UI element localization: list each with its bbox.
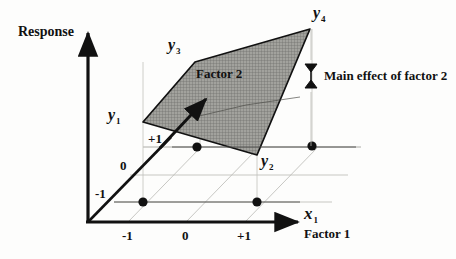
point-label-y3: y3 <box>168 36 181 56</box>
x2-axis-line <box>88 137 171 222</box>
y3-subscript: 3 <box>175 46 181 56</box>
x1-tick--1: -1 <box>122 228 133 244</box>
x2-tick--1: -1 <box>95 186 106 202</box>
x2-tick-0: 0 <box>120 158 127 174</box>
foreground-floor-grid <box>114 147 356 202</box>
main-effect-label: Main effect of factor 2 <box>324 68 447 84</box>
y2-subscript: 2 <box>268 162 274 172</box>
x2-tick-+1: +1 <box>148 131 162 147</box>
y4-subscript: 4 <box>320 14 326 24</box>
figure-canvas: Response y1 y2 y3 y4 Factor 2 Main effec… <box>0 0 456 259</box>
x1-axis-caption: Factor 1 <box>304 226 350 242</box>
x1-tick-+1: +1 <box>237 228 251 244</box>
response-axis-label: Response <box>18 24 74 40</box>
y1-subscript: 1 <box>115 116 121 126</box>
x1-tick-0: 0 <box>182 228 189 244</box>
point-label-y1: y1 <box>108 106 121 126</box>
x1-symbol: x <box>304 204 313 223</box>
point-label-y4: y4 <box>313 4 326 24</box>
point-label-y2: y2 <box>261 152 274 172</box>
x1-axis-symbol: x1 <box>304 204 318 225</box>
x1-subscript: 1 <box>313 215 319 225</box>
design-point-dots <box>138 141 316 206</box>
main-effect-indicator <box>305 64 317 88</box>
factor2-arrow-label: Factor 2 <box>196 66 242 82</box>
